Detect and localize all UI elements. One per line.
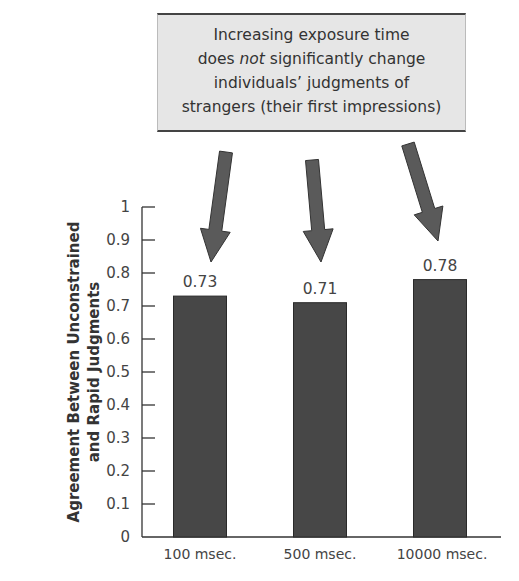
bar bbox=[174, 296, 227, 537]
y-tick-label: 0.9 bbox=[90, 231, 130, 249]
arrow-icon bbox=[200, 151, 232, 262]
y-tick-label: 0.7 bbox=[90, 297, 130, 315]
y-tick-label: 1 bbox=[90, 198, 130, 216]
bar-value-label: 0.71 bbox=[303, 280, 338, 298]
bar bbox=[294, 303, 347, 537]
x-category-label: 100 msec. bbox=[164, 546, 237, 562]
x-category-label: 500 msec. bbox=[284, 546, 357, 562]
y-axis-title-line-1: Agreement Between Unconstrained bbox=[64, 222, 84, 523]
bar-value-label: 0.73 bbox=[183, 273, 218, 291]
arrow-icon bbox=[303, 159, 333, 262]
bar-value-label: 0.78 bbox=[423, 257, 458, 275]
x-category-label: 10000 msec. bbox=[397, 546, 488, 562]
arrow-icon bbox=[402, 142, 443, 241]
y-tick-label: 0 bbox=[90, 528, 130, 546]
y-tick-label: 0.6 bbox=[90, 330, 130, 348]
y-tick-label: 0.5 bbox=[90, 363, 130, 381]
y-tick-label: 0.8 bbox=[90, 264, 130, 282]
y-tick-label: 0.1 bbox=[90, 495, 130, 513]
y-tick-label: 0.4 bbox=[90, 396, 130, 414]
y-tick-label: 0.3 bbox=[90, 429, 130, 447]
y-tick-label: 0.2 bbox=[90, 462, 130, 480]
bar bbox=[414, 280, 467, 537]
